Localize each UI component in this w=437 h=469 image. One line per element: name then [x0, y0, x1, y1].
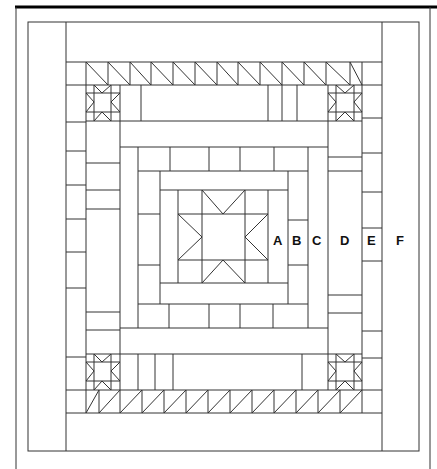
sawtooth-bottom: [86, 390, 362, 413]
quilt-outline: [28, 22, 419, 451]
b-divisions: [138, 147, 308, 328]
sawtooth-top: [86, 62, 362, 85]
corner-star-top-right: [328, 85, 362, 121]
corner-star-bottom-left: [86, 354, 120, 390]
label-a: A: [273, 233, 283, 248]
bottom-d-divisions: [138, 354, 302, 390]
corner-star-top-left: [86, 85, 120, 121]
label-c: C: [312, 233, 322, 248]
left-e-divisions: [66, 85, 86, 390]
left-d-divisions: [86, 163, 120, 330]
label-e: E: [367, 233, 376, 248]
center-star-block: [178, 190, 268, 283]
label-f: F: [396, 233, 404, 248]
corner-star-bottom-right: [328, 354, 362, 390]
quilt-diagram: A B C D E F: [0, 0, 437, 469]
label-b: B: [292, 233, 301, 248]
ring-labels: A B C D E F: [273, 233, 404, 248]
label-d: D: [340, 233, 349, 248]
top-d-divisions: [141, 85, 297, 121]
